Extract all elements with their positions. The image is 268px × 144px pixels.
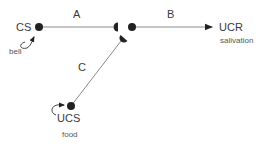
edge-c-label: C <box>78 61 86 73</box>
junction-right-dot <box>128 23 136 31</box>
conditioning-diagram: A B C CS bell UCR salivation UCS food <box>0 0 268 144</box>
ucs-label: UCS <box>57 112 80 124</box>
edge-b: B <box>132 8 212 27</box>
cs-stimulus-arrow-icon <box>21 37 34 48</box>
cs-sublabel: bell <box>9 47 22 56</box>
cs-dot <box>35 23 43 31</box>
junction <box>114 23 136 45</box>
ucs-node: UCS food <box>52 102 80 139</box>
edge-b-label: B <box>167 8 174 20</box>
edge-c-line <box>71 41 121 106</box>
ucr-sublabel: salivation <box>220 36 253 45</box>
edge-a: A <box>39 8 113 27</box>
edge-c: C <box>71 41 121 106</box>
ucs-dot <box>67 102 75 110</box>
edge-a-label: A <box>73 8 81 20</box>
junction-left-terminal-icon <box>114 23 118 32</box>
ucs-sublabel: food <box>62 130 78 139</box>
ucr-node: UCR salivation <box>219 21 253 45</box>
cs-node: CS bell <box>9 21 43 56</box>
cs-label: CS <box>16 21 31 33</box>
ucr-label: UCR <box>219 21 243 33</box>
